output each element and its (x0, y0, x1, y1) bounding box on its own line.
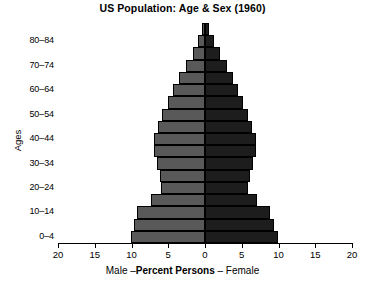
y-tick-label-10-14: 10–14 (0, 206, 54, 216)
y-tick-label-20-24: 20–24 (0, 182, 54, 192)
plot-area (58, 23, 352, 243)
y-tick-label-80-84: 80–84 (0, 35, 54, 45)
bar-male-65-69 (179, 72, 205, 84)
y-tick-label-70-74: 70–74 (0, 60, 54, 70)
bar-female-10-14 (205, 206, 270, 218)
x-tick (132, 243, 133, 248)
x-tick-label: 0 (185, 249, 225, 260)
x-tick (95, 243, 96, 248)
bar-female-30-34 (205, 157, 253, 169)
pyramid-row (58, 96, 352, 108)
pyramid-row (58, 35, 352, 47)
bar-male-10-14 (137, 206, 205, 218)
x-axis-caption-center: Percent Persons (136, 265, 215, 276)
bar-male-25-29 (160, 170, 205, 182)
bar-female-70-74 (205, 60, 227, 72)
x-axis-caption: Male –Percent Persons – Female (0, 265, 365, 276)
x-tick (242, 243, 243, 248)
x-tick-label: 10 (259, 249, 299, 260)
pyramid-row (58, 194, 352, 206)
bar-male-35-39 (154, 145, 205, 157)
y-tick-label-50-54: 50–54 (0, 109, 54, 119)
bar-male-30-34 (157, 157, 205, 169)
x-tick (58, 243, 59, 248)
y-tick-label-0-4: 0–4 (0, 231, 54, 241)
bar-male-80-84 (198, 35, 205, 47)
x-tick-label: 5 (222, 249, 262, 260)
chart-title: US Population: Age & Sex (1960) (0, 2, 365, 14)
pyramid-row (58, 157, 352, 169)
x-tick (315, 243, 316, 248)
pyramid-row (58, 219, 352, 231)
bar-male-20-24 (161, 182, 205, 194)
population-pyramid-chart: US Population: Age & Sex (1960) Ages 201… (0, 0, 365, 292)
bar-male-50-54 (162, 109, 205, 121)
x-tick-label: 15 (75, 249, 115, 260)
y-tick-label-40-44: 40–44 (0, 133, 54, 143)
x-tick-label: 10 (112, 249, 152, 260)
bar-female-60-64 (205, 84, 238, 96)
bar-female-55-59 (205, 96, 243, 108)
bar-male-45-49 (158, 121, 205, 133)
pyramid-row (58, 72, 352, 84)
pyramid-row (58, 145, 352, 157)
bar-female-75-79 (205, 47, 220, 59)
pyramid-row (58, 84, 352, 96)
bar-male-15-19 (151, 194, 205, 206)
x-tick-label: 5 (148, 249, 188, 260)
bar-female-15-19 (205, 194, 257, 206)
bar-male-70-74 (186, 60, 205, 72)
x-tick-label: 20 (332, 249, 365, 260)
bar-female-35-39 (205, 145, 256, 157)
bar-female-20-24 (205, 182, 248, 194)
bar-female-65-69 (205, 72, 233, 84)
y-tick-label-60-64: 60–64 (0, 84, 54, 94)
pyramid-row (58, 182, 352, 194)
bar-male-0-4 (131, 231, 205, 243)
x-axis-caption-right: – Female (218, 265, 260, 276)
bar-male-55-59 (168, 96, 205, 108)
x-tick (352, 243, 353, 248)
bar-female-5-9 (205, 219, 274, 231)
pyramid-row (58, 60, 352, 72)
x-tick-label: 20 (38, 249, 78, 260)
bar-female-25-29 (205, 170, 250, 182)
pyramid-row (58, 133, 352, 145)
bar-male-60-64 (173, 84, 205, 96)
pyramid-row (58, 170, 352, 182)
x-tick-label: 15 (295, 249, 335, 260)
bar-female-45-49 (205, 121, 252, 133)
bar-female-85+ (205, 23, 209, 35)
x-tick (168, 243, 169, 248)
pyramid-row (58, 47, 352, 59)
bar-male-5-9 (134, 219, 205, 231)
x-tick (205, 243, 206, 248)
y-tick-label-30-34: 30–34 (0, 158, 54, 168)
pyramid-row (58, 231, 352, 243)
x-axis-caption-left: Male – (106, 265, 136, 276)
pyramid-row (58, 23, 352, 35)
pyramid-row (58, 121, 352, 133)
bar-male-75-79 (193, 47, 205, 59)
bar-female-40-44 (205, 133, 256, 145)
bar-female-80-84 (205, 35, 214, 47)
pyramid-row (58, 109, 352, 121)
x-tick (279, 243, 280, 248)
bar-female-0-4 (205, 231, 278, 243)
bar-male-40-44 (154, 133, 205, 145)
pyramid-row (58, 206, 352, 218)
bar-female-50-54 (205, 109, 248, 121)
